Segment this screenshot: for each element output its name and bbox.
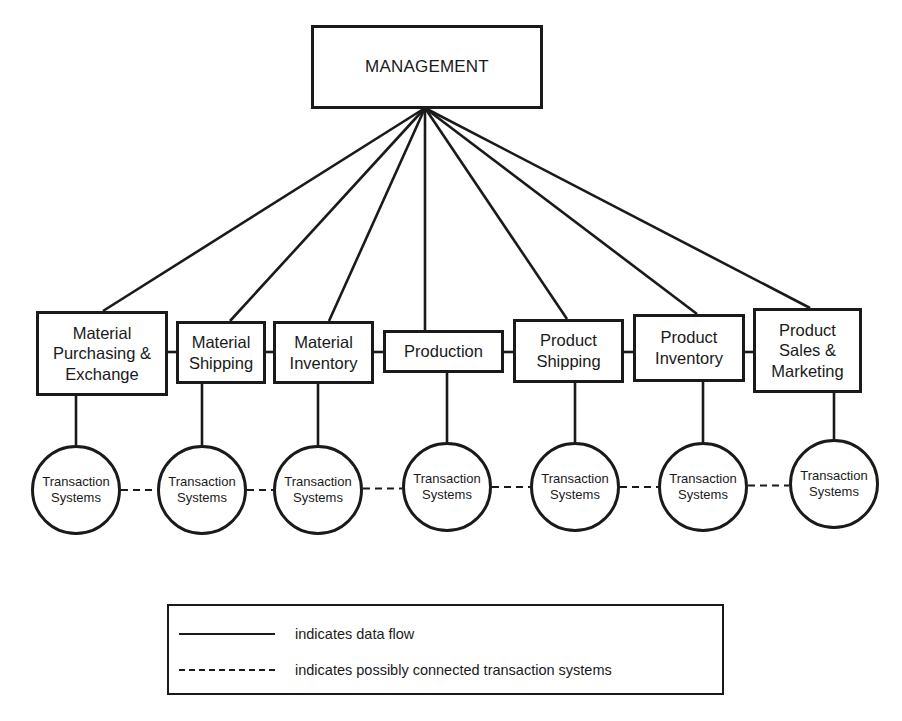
data-flow-line	[329, 108, 425, 321]
legend-label: indicates possibly connected transaction…	[295, 662, 612, 678]
dept-label: Product Shipping	[536, 330, 600, 371]
transaction-system-node: Transaction Systems	[31, 445, 121, 535]
transaction-label: Transaction Systems	[541, 471, 608, 502]
transaction-label: Transaction Systems	[284, 474, 351, 505]
dept-product-sales-marketing: Product Sales & Marketing	[753, 308, 862, 393]
transaction-system-node: Transaction Systems	[157, 445, 247, 535]
dept-production: Production	[383, 330, 504, 373]
legend-item-data-flow: indicates data flow	[169, 622, 414, 646]
transaction-label: Transaction Systems	[800, 468, 867, 499]
dashed-line-swatch-icon	[179, 669, 275, 671]
dept-label: Product Inventory	[655, 327, 723, 368]
transaction-system-node: Transaction Systems	[789, 439, 879, 529]
data-flow-line	[425, 108, 697, 314]
dept-product-shipping: Product Shipping	[513, 319, 624, 383]
dept-label: Material Inventory	[290, 332, 358, 373]
management-box: MANAGEMENT	[311, 25, 543, 109]
transaction-system-node: Transaction Systems	[530, 442, 620, 532]
dept-label: Material Shipping	[189, 332, 253, 373]
legend-label: indicates data flow	[295, 626, 414, 642]
diagram-canvas: MANAGEMENT Material Purchasing & Exchang…	[0, 0, 902, 721]
legend-item-transaction-link: indicates possibly connected transaction…	[169, 658, 612, 682]
management-label: MANAGEMENT	[365, 56, 489, 77]
data-flow-line	[425, 108, 567, 319]
dept-label: Production	[404, 341, 483, 362]
dept-material-shipping: Material Shipping	[176, 321, 266, 384]
transaction-label: Transaction Systems	[669, 471, 736, 502]
dept-material-inventory: Material Inventory	[273, 321, 374, 384]
data-flow-line	[425, 108, 810, 308]
solid-line-swatch-icon	[179, 633, 275, 635]
transaction-system-node: Transaction Systems	[658, 442, 748, 532]
dept-material-purchasing-exchange: Material Purchasing & Exchange	[36, 311, 168, 396]
data-flow-line	[103, 108, 425, 311]
dept-label: Product Sales & Marketing	[771, 320, 843, 382]
legend: indicates data flow indicates possibly c…	[167, 604, 724, 695]
transaction-system-node: Transaction Systems	[402, 442, 492, 532]
transaction-label: Transaction Systems	[168, 474, 235, 505]
data-flow-line	[230, 108, 425, 321]
dept-product-inventory: Product Inventory	[633, 314, 745, 382]
transaction-system-node: Transaction Systems	[273, 445, 363, 535]
dept-label: Material Purchasing & Exchange	[53, 323, 151, 385]
transaction-label: Transaction Systems	[413, 471, 480, 502]
transaction-label: Transaction Systems	[42, 474, 109, 505]
